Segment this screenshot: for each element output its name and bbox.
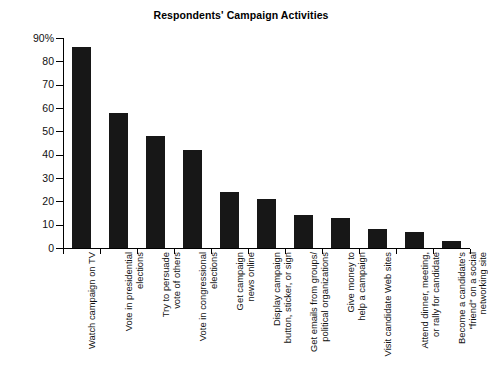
x-axis-label-line: Visit candidate Web sites bbox=[382, 252, 393, 356]
bar bbox=[109, 113, 128, 248]
bar bbox=[183, 150, 202, 248]
x-axis-label-line: Try to persuade bbox=[160, 252, 171, 317]
x-axis-label: Try to persuadevote of others bbox=[161, 252, 182, 317]
y-axis-tick-label: 20 bbox=[14, 196, 54, 207]
bar-series bbox=[63, 38, 470, 248]
x-axis-label-line: button, sticker, or sign bbox=[282, 252, 293, 343]
x-axis-label-line: elections bbox=[134, 252, 145, 331]
x-axis-label-line: elections bbox=[208, 252, 219, 341]
x-axis-label-line: Get campaign bbox=[234, 252, 245, 310]
x-axis-label: Vote in presidentialelections bbox=[124, 252, 145, 331]
y-axis-tick bbox=[56, 131, 63, 132]
y-axis-tick-label: 90% bbox=[14, 33, 54, 44]
y-axis-tick bbox=[56, 108, 63, 109]
bar bbox=[442, 241, 461, 248]
x-axis-label-line: news online bbox=[245, 252, 256, 310]
x-axis-label-line: Vote in presidential bbox=[123, 252, 134, 331]
y-axis-tick bbox=[56, 155, 63, 156]
x-axis-label-line: political organizations bbox=[319, 252, 330, 352]
x-axis-label: Give money tohelp a campaign bbox=[346, 252, 367, 321]
y-axis-tick bbox=[56, 38, 63, 39]
bar bbox=[331, 218, 350, 248]
y-axis-tick-label: 10 bbox=[14, 219, 54, 230]
y-axis-tick-label: 40 bbox=[14, 149, 54, 160]
bar bbox=[72, 47, 91, 248]
bar bbox=[368, 229, 387, 248]
bar bbox=[257, 199, 276, 248]
y-axis-tick-label: 70 bbox=[14, 79, 54, 90]
x-axis-label: Get emails from groups/political organiz… bbox=[309, 252, 330, 352]
chart-title: Respondents' Campaign Activities bbox=[0, 9, 482, 21]
y-axis-tick-labels: 90%80706050403020100 bbox=[10, 0, 54, 389]
bar bbox=[405, 232, 424, 248]
y-axis-tick-label: 30 bbox=[14, 173, 54, 184]
y-axis-tick bbox=[56, 201, 63, 202]
y-axis-tick bbox=[56, 178, 63, 179]
bar bbox=[220, 192, 239, 248]
x-axis-label-line: "friend" on a social bbox=[467, 252, 478, 344]
x-axis-label-line: vote of others bbox=[171, 252, 182, 317]
x-axis-label: Watch campaign on TV bbox=[87, 252, 98, 349]
x-axis-line bbox=[63, 248, 470, 249]
y-axis-tick bbox=[56, 225, 63, 226]
x-axis-category-labels: Watch campaign on TVVote in presidential… bbox=[63, 252, 470, 389]
x-axis-label-line: Vote in congressional bbox=[197, 252, 208, 341]
x-axis-label: Vote in congressionalelections bbox=[198, 252, 219, 341]
x-axis-label-line: Display campaign bbox=[271, 252, 282, 326]
x-axis-label-line: or rally for candidate bbox=[430, 252, 441, 348]
x-axis-label-line: Get emails from groups/ bbox=[308, 252, 319, 352]
y-axis-tick bbox=[56, 61, 63, 62]
y-axis-tick-label: 0 bbox=[14, 243, 54, 254]
y-axis-tick-label: 60 bbox=[14, 103, 54, 114]
x-axis-label-line: Watch campaign on TV bbox=[86, 252, 97, 349]
x-axis-label: Become a candidate's"friend" on a social… bbox=[457, 252, 488, 344]
x-axis-label-line: Attend dinner, meeting, bbox=[419, 252, 430, 348]
x-axis-label-line: Become a candidate's bbox=[456, 252, 467, 344]
bar bbox=[146, 136, 165, 248]
y-axis-tick bbox=[56, 85, 63, 86]
bar bbox=[294, 215, 313, 248]
y-axis-tick-label: 50 bbox=[14, 126, 54, 137]
x-axis-label: Visit candidate Web sites bbox=[383, 252, 394, 356]
x-axis-label: Get campaignnews online bbox=[235, 252, 256, 310]
x-axis-label: Attend dinner, meeting,or rally for cand… bbox=[420, 252, 441, 348]
y-axis-tick-label: 80 bbox=[14, 56, 54, 67]
y-axis-tick bbox=[56, 248, 63, 249]
x-axis-label: Display campaignbutton, sticker, or sign bbox=[272, 252, 293, 343]
x-axis-label-line: networking site bbox=[478, 252, 488, 344]
x-axis-label-line: Give money to bbox=[345, 252, 356, 312]
x-axis-label-line: help a campaign bbox=[356, 252, 367, 321]
